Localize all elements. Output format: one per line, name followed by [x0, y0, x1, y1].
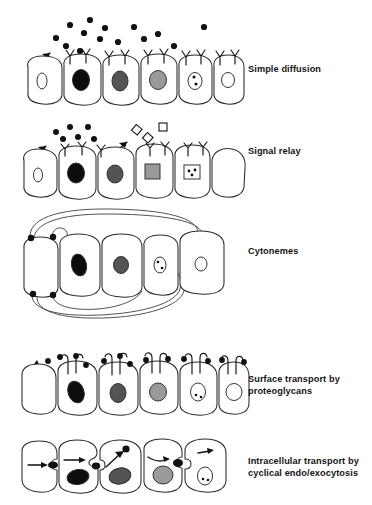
nucleus-dark-gray — [114, 257, 129, 274]
free-ligand-group — [53, 17, 207, 54]
nucleus-mid-gray — [150, 383, 167, 401]
nucleus-white — [222, 73, 235, 88]
ligand-dot — [115, 39, 121, 45]
ligand-dot — [85, 124, 91, 130]
nucleus-black — [73, 70, 90, 91]
simple-diffusion-svg — [8, 8, 248, 108]
nucleus-dotted-square — [184, 165, 200, 179]
cell-row — [24, 144, 246, 199]
panel-surface-transport: Surface transport by proteoglycans — [0, 345, 372, 420]
surface-ligand-dot — [45, 358, 51, 364]
cell-row — [22, 361, 249, 415]
ligand-dot — [53, 35, 59, 41]
relay-square — [131, 124, 142, 135]
figure-caption — [6, 495, 366, 504]
relay-square — [159, 123, 167, 131]
vesicle — [122, 445, 129, 452]
cytonemes-svg — [8, 205, 248, 315]
panel-label-cytonemes: Cytonemes — [248, 246, 298, 258]
nucleus-gray-square — [145, 164, 160, 179]
surface-ligand-dot — [73, 353, 79, 359]
ligand-dot — [155, 31, 161, 37]
panel-label-surface-transport: Surface transport by proteoglycans — [248, 374, 340, 397]
ligand-dot — [131, 24, 137, 30]
panel-label-signal-relay: Signal relay — [248, 146, 301, 158]
panel-surface-transport-art — [8, 345, 248, 420]
ligand-dot — [141, 36, 147, 42]
ligand-dot — [63, 43, 69, 49]
intracellular-transport-svg — [8, 437, 248, 499]
free-ligand-group — [53, 124, 97, 142]
surface-ligand-dot — [241, 359, 247, 365]
panel-intracellular-transport-art — [8, 437, 248, 499]
ligand-dot — [102, 25, 108, 31]
panel-label-intracellular-transport: Intracellular transport by cyclical endo… — [248, 456, 359, 479]
ligand-dot — [60, 136, 66, 142]
nucleus-white — [195, 257, 207, 271]
surface-ligand-dot — [117, 353, 123, 359]
nucleus-open-source — [34, 168, 43, 182]
nucleus-dark-gray — [110, 384, 126, 403]
ligand-dot — [171, 43, 177, 49]
surface-ligand-dot — [205, 358, 211, 364]
figure-root: Simple diffusion — [0, 0, 372, 505]
panel-cytonemes-art — [8, 205, 248, 315]
nucleus-dark-gray — [112, 71, 128, 91]
ligand-dot — [75, 134, 81, 140]
cell-5 — [212, 149, 245, 198]
cell-row — [28, 54, 244, 105]
panel-signal-relay-art — [8, 113, 248, 203]
surface-ligand-dot — [83, 362, 89, 368]
cytoneme-contact-dot — [50, 292, 56, 298]
surface-ligand-dot — [165, 356, 171, 362]
vesicle — [92, 463, 100, 470]
relay-square-group — [131, 123, 167, 143]
surface-ligand-dot — [101, 358, 107, 364]
ligand-dot — [81, 30, 87, 36]
panel-label-simple-diffusion: Simple diffusion — [248, 64, 321, 76]
cytoneme-contact-dot — [28, 235, 34, 241]
cytoneme-contact-dot — [50, 234, 56, 240]
nucleus-dotted — [154, 257, 166, 273]
surface-ligand-dot — [143, 357, 149, 363]
signal-relay-svg — [8, 113, 248, 203]
nucleus-dotted — [191, 383, 206, 401]
nucleus-dotted — [188, 73, 202, 90]
nucleus-white — [226, 384, 242, 401]
surface-ligand-dot — [127, 361, 133, 367]
surface-transport-svg — [8, 345, 248, 420]
panel-simple-diffusion-art — [8, 8, 248, 108]
vesicle — [48, 461, 58, 468]
panel-signal-relay: Signal relay — [0, 113, 372, 203]
ligand-dot — [67, 22, 73, 28]
vesicle — [173, 459, 183, 467]
cell-source — [24, 237, 58, 297]
relay-square — [142, 132, 153, 143]
nucleus-dark-gray — [107, 165, 123, 183]
surface-ligand-dot — [57, 354, 63, 360]
surface-ligand-dot — [181, 356, 187, 362]
ligand-dot — [67, 124, 73, 130]
nucleus-dotted — [198, 467, 213, 485]
nucleus-black — [68, 163, 85, 183]
ligand-dot — [87, 17, 93, 23]
nucleus-mid-gray — [150, 71, 167, 90]
ligand-dot — [53, 129, 59, 135]
nucleus-mid-gray — [153, 466, 173, 484]
ligand-dot — [91, 136, 97, 142]
panel-cytonemes: Cytonemes — [0, 205, 372, 315]
surface-ligand-dot — [219, 357, 225, 363]
ligand-dot — [201, 24, 207, 30]
cell-source — [22, 364, 56, 414]
ligand-dot — [97, 36, 103, 42]
panel-simple-diffusion: Simple diffusion — [0, 8, 372, 108]
panel-intracellular-transport: Intracellular transport by cyclical endo… — [0, 437, 372, 499]
nucleus-open-source — [37, 73, 47, 89]
cytoneme-contact-dot — [30, 291, 36, 297]
